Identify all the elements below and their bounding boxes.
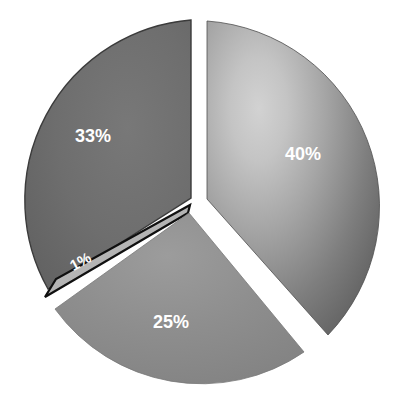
pie-label-33: 33% <box>75 126 111 146</box>
pie-label-25: 25% <box>153 312 189 332</box>
pie-chart-container: 40% 33% 25% 1% <box>0 0 402 410</box>
pie-chart-svg: 40% 33% 25% 1% <box>0 0 402 410</box>
pie-label-40: 40% <box>285 144 321 164</box>
